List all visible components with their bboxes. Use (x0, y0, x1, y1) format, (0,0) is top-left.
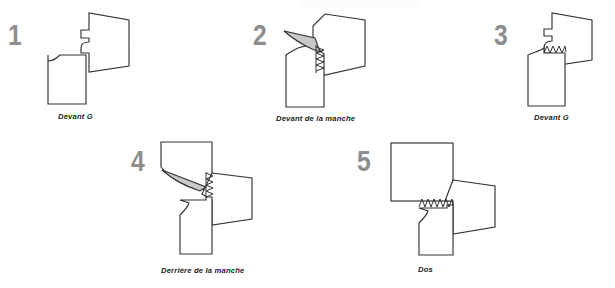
bodice-front-outline-1 (48, 55, 86, 104)
step-caption-3: Devant G (534, 113, 569, 123)
step-caption-1: Devant G (58, 112, 93, 122)
back-panel-outline-5 (391, 143, 453, 201)
pattern-piece-back-icon (385, 137, 535, 262)
bodice-outline-5 (419, 205, 453, 255)
step-number-4: 4 (131, 146, 144, 176)
step-number-3: 3 (494, 20, 507, 50)
step-caption-4: Derrière de la manche (161, 266, 244, 276)
sleeve-wedge-outline-1 (81, 13, 129, 72)
step-caption-2: Devant de la manche (276, 114, 355, 124)
pattern-piece-sleeve-back-icon (150, 137, 310, 262)
pattern-piece-front-left-stitched-icon (508, 8, 615, 118)
diagram-sheet: 1 Devant G 2 Devant de la manche 3 (0, 0, 615, 288)
step-number-1: 1 (8, 20, 21, 50)
step-caption-5: Dos (418, 265, 433, 275)
bodice-front-outline-3 (528, 48, 565, 106)
step-number-5: 5 (357, 146, 370, 176)
pattern-piece-sleeve-front-icon (268, 8, 408, 113)
bodice-back-outline-4 (180, 197, 212, 254)
pattern-piece-front-left-icon (38, 8, 168, 113)
step-number-2: 2 (253, 20, 266, 50)
scan-artifact (300, 1, 420, 8)
